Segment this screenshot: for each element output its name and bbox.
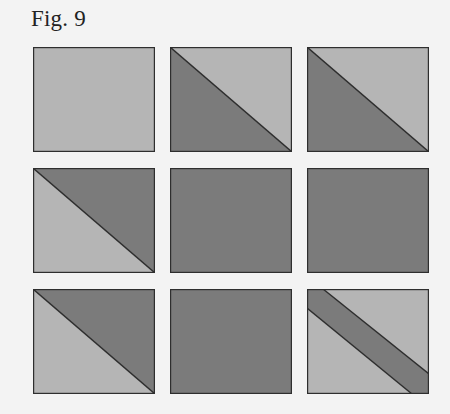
- tile-r3c1-diagonal-dark-upper-right: [33, 289, 155, 394]
- tile-r2c2-solid-dark: [170, 168, 292, 273]
- tile-r2c3-solid-dark: [307, 168, 429, 273]
- tile-r1c3-diagonal-dark-lower-left: [307, 47, 429, 152]
- tile-r3c3-diagonal-dark-band: [307, 289, 429, 394]
- tile-r3c2-solid-dark: [170, 289, 292, 394]
- tile-r1c2-diagonal-dark-lower-left: [170, 47, 292, 152]
- tile-r1c1-solid-light: [33, 47, 155, 152]
- figure-title: Fig. 9: [31, 6, 86, 32]
- tile-r2c1-diagonal-dark-upper-right: [33, 168, 155, 273]
